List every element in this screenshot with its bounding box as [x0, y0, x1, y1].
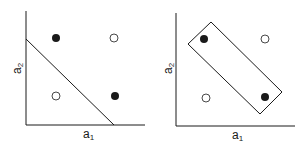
- point-filled: [261, 93, 269, 101]
- right-y-label: a2: [161, 62, 176, 74]
- left-panel: a1 a2: [10, 11, 145, 142]
- right-x-label: a1: [232, 128, 244, 143]
- point-open: [202, 94, 210, 102]
- point-open: [110, 34, 118, 42]
- point-filled: [52, 34, 60, 42]
- left-separator-line: [26, 39, 114, 125]
- xor-diagram: a1 a2 a1 a2: [0, 0, 308, 147]
- right-panel: a1 a2: [161, 13, 295, 143]
- point-filled: [111, 92, 119, 100]
- left-y-label: a2: [10, 62, 25, 74]
- left-x-label: a1: [83, 127, 95, 142]
- point-open: [52, 92, 60, 100]
- point-filled: [200, 35, 208, 43]
- point-open: [261, 35, 269, 43]
